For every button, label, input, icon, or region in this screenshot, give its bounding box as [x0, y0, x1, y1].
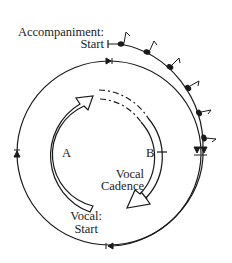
section-b-label: B [146, 146, 154, 160]
arrowhead-left [14, 151, 20, 157]
arrowhead-top [106, 58, 111, 64]
arrow-a [51, 96, 93, 212]
arrow-b-tick-2 [141, 192, 147, 199]
cycle-circle [17, 61, 201, 245]
note-icon [118, 42, 124, 46]
form-diagram: Accompaniment: Start A B Vocal Cadence V… [0, 0, 232, 263]
accompaniment-start-label: Start [80, 37, 104, 51]
arrowhead-right-outer [201, 147, 207, 153]
vocal-cadence-label-2: Cadence [101, 179, 144, 193]
arrow-b-dashed-inner [100, 99, 141, 122]
note-icon [144, 49, 151, 55]
vocal-start-label-2: Start [74, 222, 98, 236]
arrowhead-right-inner [194, 147, 200, 153]
arrow-b-dashed-outer [99, 90, 148, 118]
vocal-start-label-1: Vocal: [70, 209, 102, 223]
section-a-label: A [62, 146, 71, 160]
arrowhead-bottom [108, 243, 113, 249]
arrow-b [127, 118, 162, 208]
